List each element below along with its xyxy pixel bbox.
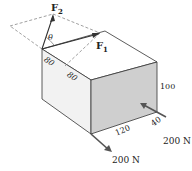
statics-diagram: F2 θ F1 80 80 100 120 40 200 N 200 N	[0, 0, 192, 171]
f1-label: F1	[96, 40, 108, 54]
load-arrow-bottom	[91, 134, 109, 150]
f2-label: F2	[51, 2, 63, 16]
dimension-height-100: 100	[160, 82, 175, 91]
load-label-bottom: 200 N	[112, 155, 140, 165]
load-label-right: 200 N	[163, 136, 191, 146]
theta-label: θ	[48, 33, 53, 42]
